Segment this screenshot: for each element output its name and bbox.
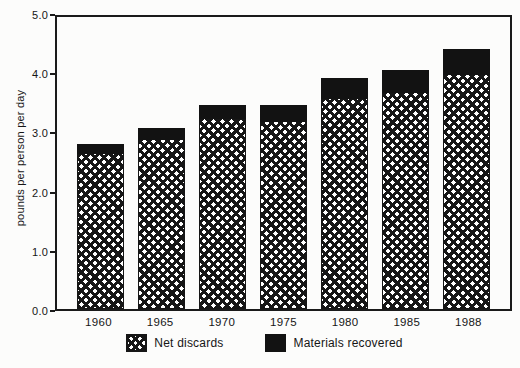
bars-row xyxy=(57,17,510,309)
net-discards-legend-label: Net discards xyxy=(154,336,223,350)
y-tick-label: 2.0 xyxy=(32,187,48,198)
y-tick-label: 4.0 xyxy=(32,69,48,80)
net-discards-segment xyxy=(199,119,246,309)
x-tick-label-1970: 1970 xyxy=(198,316,245,328)
x-axis-labels: 1960196519701975198019851988 xyxy=(55,316,512,328)
legend: Net discards Materials recovered xyxy=(55,334,512,352)
x-tick-label-1980: 1980 xyxy=(322,316,369,328)
plot-area xyxy=(55,15,512,311)
legend-item-materials-recovered: Materials recovered xyxy=(265,334,402,352)
y-tick-label: 1.0 xyxy=(32,246,48,257)
materials-recovered-segment xyxy=(138,128,185,140)
net-discards-segment xyxy=(260,122,307,309)
net-discards-segment xyxy=(138,140,185,309)
legend-item-net-discards: Net discards xyxy=(126,334,223,352)
net-discards-swatch-icon xyxy=(126,334,147,352)
materials-recovered-segment xyxy=(443,49,490,75)
materials-recovered-segment xyxy=(321,78,368,98)
bar-1988 xyxy=(443,17,490,309)
bar-1975 xyxy=(260,17,307,309)
net-discards-segment xyxy=(321,99,368,309)
x-tick-label-1965: 1965 xyxy=(137,316,184,328)
x-tick-label-1960: 1960 xyxy=(75,316,122,328)
net-discards-segment xyxy=(77,154,124,309)
materials-recovered-segment xyxy=(260,105,307,123)
bar-1965 xyxy=(138,17,185,309)
materials-recovered-segment xyxy=(77,144,124,155)
x-tick-label-1988: 1988 xyxy=(445,316,492,328)
y-tick-label: 3.0 xyxy=(32,128,48,139)
net-discards-segment xyxy=(382,93,429,309)
y-tick-label: 0.0 xyxy=(32,306,48,317)
materials-recovered-legend-label: Materials recovered xyxy=(293,336,402,350)
materials-recovered-segment xyxy=(199,105,246,120)
bar-1960 xyxy=(77,17,124,309)
net-discards-segment xyxy=(443,75,490,309)
materials-recovered-segment xyxy=(382,70,429,93)
y-tick-label: 5.0 xyxy=(32,10,48,21)
x-tick-label-1985: 1985 xyxy=(383,316,430,328)
bar-1980 xyxy=(321,17,368,309)
bar-chart-figure: pounds per person per day 0.01.02.03.04.… xyxy=(0,0,520,368)
bar-1985 xyxy=(382,17,429,309)
materials-recovered-swatch-icon xyxy=(265,334,286,352)
bar-1970 xyxy=(199,17,246,309)
x-tick-label-1975: 1975 xyxy=(260,316,307,328)
y-axis-ticks: 0.01.02.03.04.05.0 xyxy=(0,15,55,311)
